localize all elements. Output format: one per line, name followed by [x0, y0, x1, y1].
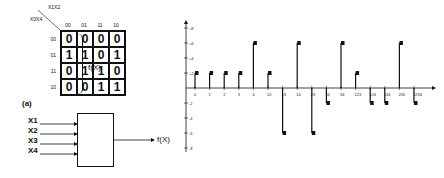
bar-marker — [195, 71, 199, 75]
bar-marker — [326, 101, 330, 105]
x-tick-label: 0 — [194, 92, 197, 97]
bar-marker — [297, 41, 301, 45]
x-tick-label: 34 — [340, 92, 345, 97]
y-tick-label: -2 — [189, 101, 193, 106]
y-tick-label: +2 — [189, 71, 194, 76]
x-tick-label: 4 — [252, 92, 255, 97]
bar-marker — [385, 101, 389, 105]
spectrum-chart: +8+6+4+2-2-4-6-8012341213142324341231241… — [0, 0, 444, 178]
x-tick-label: 234 — [398, 92, 405, 97]
x-tick-label: 1 — [209, 92, 212, 97]
x-axis-arrow-icon — [432, 86, 436, 90]
bar-marker — [268, 71, 272, 75]
y-tick-label: -4 — [189, 116, 193, 121]
bar-marker — [283, 131, 287, 135]
y-axis-arrow-icon — [184, 20, 188, 24]
bar-marker — [356, 71, 360, 75]
x-tick-label: 3 — [238, 92, 241, 97]
y-tick-label: +4 — [189, 56, 194, 61]
x-tick-label: 14 — [296, 92, 301, 97]
bar-marker — [224, 71, 228, 75]
y-tick-label: +8 — [189, 26, 194, 31]
x-tick-label: 2 — [223, 92, 226, 97]
x-tick-label: 12 — [267, 92, 272, 97]
bar-marker — [312, 131, 316, 135]
bar-marker — [239, 71, 243, 75]
bar-marker — [414, 101, 418, 105]
bar-marker — [210, 71, 214, 75]
bar-marker — [370, 101, 374, 105]
bar-marker — [399, 41, 403, 45]
bar-marker — [341, 41, 345, 45]
y-tick-label: +6 — [189, 41, 194, 46]
x-tick-label: 123 — [355, 92, 362, 97]
y-tick-label: -6 — [189, 131, 193, 136]
y-tick-label: -8 — [189, 146, 193, 151]
bar-marker — [253, 41, 257, 45]
